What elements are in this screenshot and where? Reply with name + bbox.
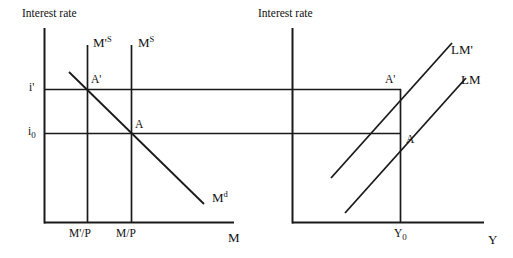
y-tick-i-zero: i0 — [28, 126, 36, 138]
right-point-a-label: A — [406, 134, 414, 146]
right-x-axis-variable: Y — [488, 233, 497, 246]
figure-svg — [0, 0, 513, 258]
right-point-a-prime-label: A' — [385, 74, 395, 86]
lm-prime-curve — [331, 43, 452, 178]
x-tick-y-zero-sub: 0 — [402, 232, 407, 242]
left-x-axis-variable: M — [228, 231, 240, 244]
y-tick-i-prime: i' — [29, 82, 34, 94]
money-demand-base: M — [212, 190, 224, 205]
money-supply-label: MS — [138, 36, 154, 49]
left-point-a-prime-label: A' — [91, 74, 101, 86]
x-tick-y-zero: Y0 — [394, 228, 407, 240]
lm-curve — [345, 78, 466, 213]
lm-prime-label: LM' — [451, 43, 473, 56]
money-demand-curve — [69, 72, 204, 204]
lm-label: LM — [461, 73, 481, 86]
right-y-axis-title: Interest rate — [258, 8, 313, 20]
money-supply-base: M — [138, 35, 150, 50]
x-tick-m-over-p: M/P — [116, 228, 136, 240]
diagram-canvas: Interest rate M'S MS Md A' A i' i0 M'/P … — [0, 0, 513, 258]
money-demand-sup: d — [224, 189, 228, 199]
money-demand-label: Md — [212, 191, 228, 204]
left-point-a-label: A — [135, 119, 143, 131]
money-supply-new-sup: S — [107, 34, 112, 44]
money-supply-new-label: M'S — [93, 36, 112, 49]
y-tick-i-zero-sub: 0 — [31, 130, 36, 140]
money-supply-sup: S — [150, 34, 155, 44]
x-tick-m-prime-over-p: M'/P — [69, 228, 91, 240]
y-tick-i-prime-base: i' — [29, 81, 34, 93]
money-supply-new-base: M' — [93, 35, 107, 50]
left-y-axis-title: Interest rate — [22, 8, 77, 20]
